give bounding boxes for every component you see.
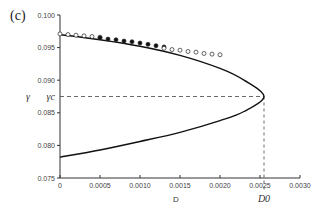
y-tick-label: 0.100	[37, 12, 55, 19]
filled-data-point	[106, 37, 110, 41]
x-tick-label: 0	[58, 182, 62, 189]
y-axis-title: γ	[26, 91, 31, 102]
open-data-point	[218, 53, 222, 57]
filled-data-point	[98, 36, 102, 40]
x-tick-label: 0.0025	[249, 182, 271, 189]
open-data-point	[74, 33, 78, 37]
chart-plot: 0.0750.0800.0850.0900.0950.10000.00050.0…	[0, 0, 335, 209]
y-tick-label: 0.080	[37, 142, 55, 149]
x-tick-label: 0.0015	[169, 182, 191, 189]
x-tick-label: 0.0010	[129, 182, 151, 189]
open-data-point	[58, 32, 62, 36]
gamma-c-label: γc	[47, 91, 56, 102]
open-data-point	[210, 52, 214, 56]
open-data-point	[186, 50, 190, 54]
filled-data-point	[130, 40, 134, 44]
open-data-point	[162, 46, 166, 50]
filled-data-point	[122, 39, 126, 43]
x-tick-label: 0.0020	[209, 182, 231, 189]
open-data-point	[202, 51, 206, 55]
theory-curve	[60, 35, 264, 158]
open-data-point	[194, 50, 198, 54]
open-data-point	[90, 35, 94, 39]
open-data-point	[82, 34, 86, 38]
x-tick-label: 0.0005	[89, 182, 111, 189]
x-axis-title: D	[173, 195, 179, 204]
filled-data-point	[138, 41, 142, 45]
open-data-point	[170, 48, 174, 52]
open-data-point	[178, 48, 182, 52]
y-tick-label: 0.085	[37, 109, 55, 116]
filled-data-point	[154, 44, 158, 48]
x-tick-label: 0.0030	[289, 182, 311, 189]
y-tick-label: 0.095	[37, 44, 55, 51]
y-tick-label: 0.075	[37, 175, 55, 182]
D0-label: D0	[257, 193, 270, 204]
filled-data-point	[146, 42, 150, 46]
y-tick-label: 0.090	[37, 77, 55, 84]
filled-data-point	[114, 38, 118, 42]
open-data-point	[66, 33, 70, 37]
